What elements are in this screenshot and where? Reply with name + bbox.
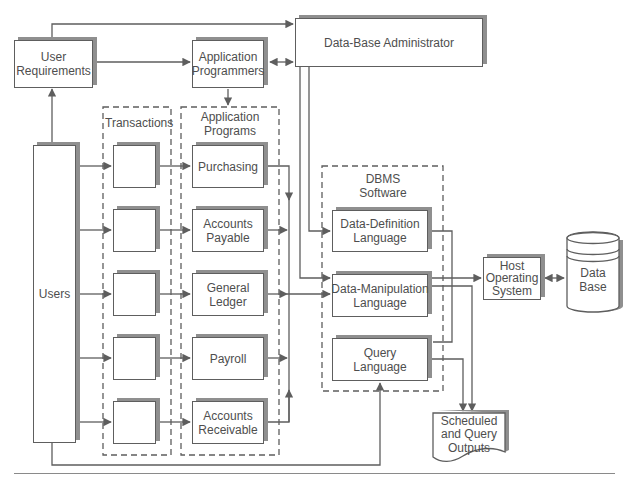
dml-label: Data-Manipulation bbox=[331, 282, 428, 296]
dbms-group-label: DBMS Software bbox=[352, 172, 414, 200]
edge-ql-to-outputs bbox=[431, 359, 463, 411]
program-label: Receivable bbox=[198, 423, 257, 437]
program-payroll: Payroll bbox=[192, 337, 264, 380]
ddl-label: Data-Definition bbox=[340, 217, 419, 231]
transaction-box bbox=[113, 337, 156, 380]
transactions-group-label: Transactions bbox=[105, 116, 169, 130]
dml-box: Data-Manipulation Language bbox=[332, 274, 428, 317]
edge-dba-to-dml bbox=[300, 67, 330, 278]
application-programmers-label: Programmers bbox=[192, 64, 265, 78]
application-programs-label: Programs bbox=[196, 124, 264, 138]
program-purchasing: Purchasing bbox=[192, 145, 264, 188]
query-language-label: Query bbox=[364, 346, 397, 360]
edge-receivable-bus bbox=[267, 390, 289, 422]
application-programs-label: Application bbox=[196, 110, 264, 124]
database-label: Data Base bbox=[567, 262, 619, 298]
program-label: Ledger bbox=[209, 295, 246, 309]
edge-purchasing-bus bbox=[267, 166, 289, 200]
host-os-box: Host Operating System bbox=[483, 257, 541, 300]
program-accounts-payable: Accounts Payable bbox=[192, 209, 264, 252]
program-label: Payroll bbox=[210, 352, 247, 366]
users-box: Users bbox=[33, 145, 76, 443]
database-label-line: Data bbox=[580, 266, 605, 280]
outputs-label-line: Scheduled bbox=[441, 415, 498, 429]
edge-dba-to-ddl bbox=[309, 67, 330, 231]
program-label: General bbox=[207, 281, 250, 295]
query-language-label: Language bbox=[353, 360, 406, 374]
database-label-line: Base bbox=[579, 280, 606, 294]
dbms-label: Software bbox=[352, 186, 414, 200]
ddl-box: Data-Definition Language bbox=[332, 210, 428, 252]
transaction-box bbox=[113, 401, 156, 444]
transaction-box bbox=[113, 209, 156, 252]
application-programs-group-label: Application Programs bbox=[196, 110, 264, 138]
edge-userreq-to-dba bbox=[52, 24, 293, 38]
outputs-label: Scheduled and Query Outputs bbox=[433, 413, 505, 457]
dml-label: Language bbox=[353, 296, 406, 310]
user-requirements-box: User Requirements bbox=[14, 40, 93, 88]
dbms-label: DBMS bbox=[352, 172, 414, 186]
program-general-ledger: General Ledger bbox=[192, 273, 264, 316]
program-label: Accounts bbox=[203, 409, 252, 423]
outputs-label-line: and Query bbox=[441, 428, 497, 442]
dbms-environment-diagram: User Requirements Application Programmer… bbox=[0, 0, 632, 477]
query-language-box: Query Language bbox=[332, 338, 428, 381]
user-requirements-label: Requirements bbox=[16, 64, 91, 78]
ddl-label: Language bbox=[353, 231, 406, 245]
transactions-label: Transactions bbox=[105, 116, 169, 130]
program-accounts-receivable: Accounts Receivable bbox=[192, 401, 264, 444]
application-programmers-box: Application Programmers bbox=[192, 40, 264, 88]
program-label: Payable bbox=[206, 231, 249, 245]
transaction-box bbox=[113, 273, 156, 316]
connector-layer bbox=[0, 0, 632, 477]
dba-box: Data-Base Administrator bbox=[295, 18, 483, 67]
program-label: Accounts bbox=[203, 217, 252, 231]
host-os-label: System bbox=[492, 285, 532, 298]
user-requirements-label: User bbox=[41, 50, 66, 64]
transaction-box bbox=[113, 145, 156, 188]
application-programmers-label: Application bbox=[199, 50, 258, 64]
bottom-divider bbox=[14, 473, 615, 474]
users-label: Users bbox=[39, 287, 70, 301]
dba-label: Data-Base Administrator bbox=[324, 36, 454, 50]
program-label: Purchasing bbox=[198, 160, 258, 174]
host-os-label: Operating bbox=[486, 272, 539, 285]
outputs-label-line: Outputs bbox=[448, 442, 490, 456]
